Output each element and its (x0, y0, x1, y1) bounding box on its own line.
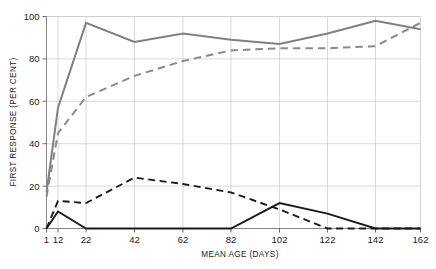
x-axis-title: MEAN AGE (DAYS) (201, 250, 278, 259)
x-tick-label: 162 (413, 234, 429, 245)
tick-marks (43, 17, 421, 233)
x-tick-label: 142 (368, 234, 384, 245)
y-axis-title: FIRST RESPONSE (PER CENT) (9, 57, 18, 186)
series-line-grey-dashed (47, 23, 421, 197)
series-line-grey-solid (47, 21, 421, 193)
y-tick-label: 20 (29, 181, 40, 192)
gridlines (47, 17, 421, 229)
axis-lines (47, 17, 421, 229)
y-tick-labels: 020406080100 (24, 11, 40, 234)
y-tick-label: 80 (29, 53, 40, 64)
x-tick-label: 102 (272, 234, 288, 245)
x-tick-label: 1 (44, 234, 49, 245)
x-tick-label: 62 (178, 234, 189, 245)
x-tick-label: 122 (320, 234, 336, 245)
series-line-black-dashed (47, 178, 421, 229)
y-tick-label: 60 (29, 96, 40, 107)
y-tick-label: 0 (34, 223, 39, 234)
data-series (47, 21, 421, 229)
x-tick-labels: 11222426282102122142162 (44, 234, 429, 245)
x-tick-label: 42 (129, 234, 140, 245)
x-tick-label: 82 (226, 234, 237, 245)
x-tick-label: 12 (53, 234, 64, 245)
series-line-black-solid (47, 203, 421, 228)
line-chart: 11222426282102122142162 020406080100 MEA… (0, 0, 436, 269)
y-tick-label: 100 (24, 11, 40, 22)
chart-container: 11222426282102122142162 020406080100 MEA… (0, 0, 436, 269)
y-tick-label: 40 (29, 138, 40, 149)
x-tick-label: 22 (81, 234, 92, 245)
